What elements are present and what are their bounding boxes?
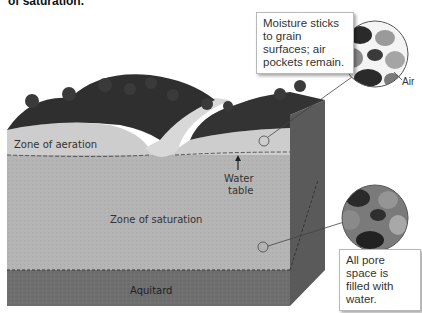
air-label: Air: [402, 76, 414, 87]
water-table-label-line1: Water: [224, 173, 254, 184]
zone-of-aeration-label: Zone of aeration: [14, 139, 97, 150]
aquitard-label: Aquitard: [130, 285, 172, 296]
saturation-callout: All pore space is filled with water.: [339, 249, 421, 311]
block-side-face: [290, 100, 325, 306]
water-table-label-line2: table: [228, 185, 253, 196]
aeration-callout: Moisture sticks to grain surfaces; air p…: [256, 12, 354, 74]
saturation-magnified-view: [340, 184, 410, 254]
zone-of-saturation-label: Zone of saturation: [110, 214, 202, 225]
